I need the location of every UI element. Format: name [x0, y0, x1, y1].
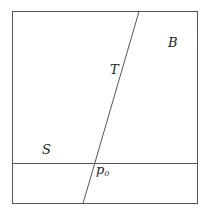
label-T: T	[110, 62, 120, 77]
label-p0: p0	[96, 162, 109, 178]
label-S: S	[42, 142, 51, 157]
label-B: B	[167, 35, 178, 50]
slanted-line-T	[83, 12, 139, 204]
diagram: B T S p0	[0, 0, 206, 214]
